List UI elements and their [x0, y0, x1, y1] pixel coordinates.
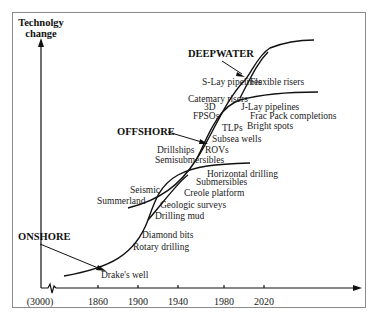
label-seismic: Seismic [130, 185, 160, 195]
technology-change-diagram: Technolgy change (3000) 1860 1900 1940 1… [0, 0, 379, 322]
label-creole-platform: Creole platform [184, 188, 245, 198]
label-catemary-risers: Catemary risers [188, 94, 248, 104]
label-diamond-bits: Diamond bits [142, 230, 194, 240]
label-tlps: TLPs [222, 123, 243, 133]
label-summerland: Summerland [97, 196, 146, 206]
label-drakes-well: Drake's well [101, 270, 149, 280]
offshore-pointer [168, 132, 205, 143]
x-tick-3000: (3000) [27, 296, 54, 308]
label-frac-pack-completions: Frac Pack completions [250, 111, 337, 121]
label-semisubmersibles: Semisubmersibles [155, 155, 224, 165]
y-axis-label-line2: change [25, 28, 57, 39]
x-tick-1940: 1940 [168, 296, 188, 307]
label-bright-spots: Bright spots [247, 121, 293, 131]
label-geologic-surveys: Geologic surveys [160, 200, 227, 210]
x-tick-1900: 1900 [128, 296, 148, 307]
onshore-label: ONSHORE [18, 231, 71, 242]
x-tick-1860: 1860 [88, 296, 108, 307]
label-horizontal-drilling: Horizontal drilling [207, 169, 278, 179]
offshore-label: OFFSHORE [117, 126, 175, 137]
label-rovs: ROVs [205, 145, 229, 155]
label-drillships: Drillships [157, 145, 195, 155]
label-subsea-wells: Subsea wells [212, 134, 262, 144]
label-fpsos: FPSOs [193, 111, 220, 121]
y-axis [38, 38, 44, 288]
label-drilling-mud: Drilling mud [155, 211, 205, 221]
y-axis-label-line1: Technolgy [18, 17, 64, 28]
deepwater-label: DEEPWATER [188, 48, 254, 59]
onshore-pointer [40, 244, 103, 270]
x-tick-1980: 1980 [214, 296, 234, 307]
y-axis-arrow-icon [38, 38, 44, 47]
x-axis-arrow-icon [353, 285, 362, 291]
deepwater-pointer [222, 61, 242, 74]
x-axis [41, 284, 362, 293]
label-rotary-drilling: Rotary drilling [133, 242, 189, 252]
x-tick-2020: 2020 [254, 296, 274, 307]
label-flexible-risers: Flexible risers [250, 77, 304, 87]
